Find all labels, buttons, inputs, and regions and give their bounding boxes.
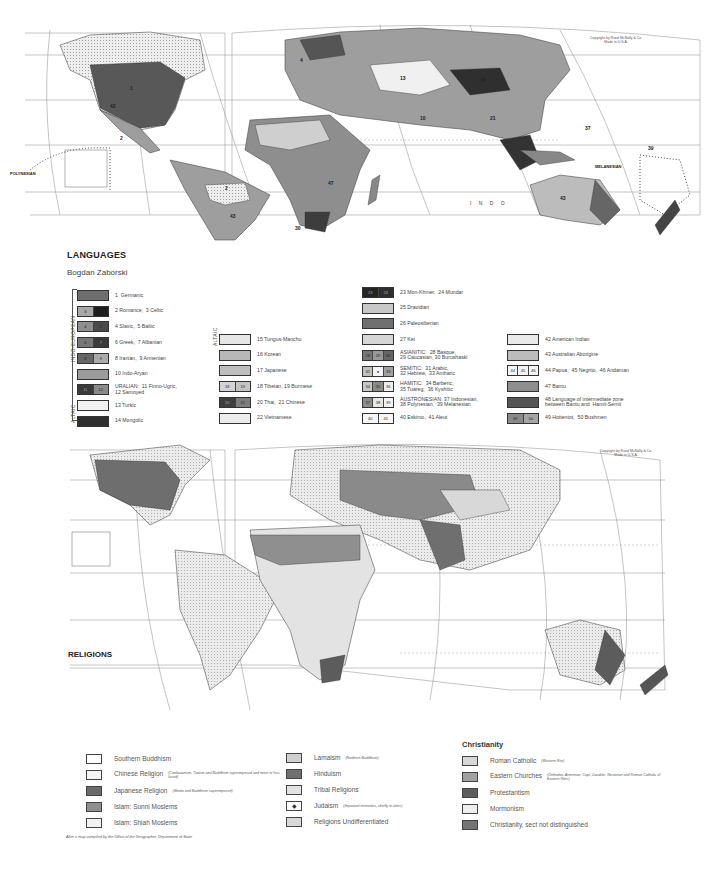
legend-label: 4 Slavic, 5 Baltic <box>115 324 155 330</box>
religion-legend-item: Christianity, sect not distinguished <box>462 818 588 831</box>
indo-european-label: INDO-EUROPEAN <box>70 316 76 362</box>
language-legend-item: 202120 Thai, 21 Chinese <box>219 396 305 409</box>
legend-label: Christianity, sect not distinguished <box>490 821 588 828</box>
language-legend-item: 47 Bantu <box>507 380 566 393</box>
legend-label: Eastern Churches(Orthodox, Armenian, Cop… <box>490 772 662 780</box>
svg-text:I N D O: I N D O <box>470 200 508 206</box>
religion-legend-item: Islam: Shiah Moslems <box>86 816 178 829</box>
language-legend-item: 343536HAMITIC: 34 Barberic, 35 Tuareg, 3… <box>362 380 454 393</box>
altaic-label-1: ALTAIC <box>70 404 76 423</box>
legend-label: 43 Australian Aborigine <box>545 352 598 358</box>
legend-swatch <box>77 369 109 380</box>
legend-swatch <box>77 400 109 411</box>
legend-swatch <box>286 817 302 827</box>
religion-legend-item: Religions Undifferentiated <box>286 815 388 828</box>
legend-swatch <box>462 820 478 830</box>
legend-label: Islam: Shiah Moslems <box>114 819 178 826</box>
judaism-star-icon: ◆ <box>286 801 302 811</box>
legend-label: Chinese Religion(Confucianism, Taoism an… <box>114 770 283 778</box>
svg-text:2: 2 <box>225 185 228 191</box>
religion-legend-item: Tribal Religions <box>286 783 359 796</box>
legend-label: 26 Paleosiberian <box>400 321 439 327</box>
legend-swatch: 31●33 <box>362 366 394 377</box>
legend-label: 47 Bantu <box>545 384 566 390</box>
legend-label: 13 Turkic <box>115 403 136 409</box>
christianity-heading: Christianity <box>462 740 503 749</box>
legend-label: URALIAN: 11 Finno-Ugric, 12 Samoyed <box>115 384 177 395</box>
legend-label: 20 Thai, 21 Chinese <box>257 400 305 406</box>
legend-swatch <box>462 788 478 798</box>
legend-swatch: 1112 <box>77 384 109 395</box>
religion-legend-item: Roman Catholic(Western Rite) <box>462 754 564 767</box>
legend-swatch: 67 <box>77 337 109 348</box>
legend-label: 40 Eskimo, 41 Aleut <box>400 415 447 421</box>
religion-legend-item: Lamaism(Northern Buddhism) <box>286 751 379 764</box>
legend-label: SEMITIC: 31 Arabic, 32 Hebrew, 33 Amhari… <box>400 366 455 377</box>
religion-legend-item: Mormonism <box>462 802 524 815</box>
svg-text:2: 2 <box>120 135 123 141</box>
language-legend-item: 404140 Eskimo, 41 Aleut <box>362 412 447 425</box>
legend-label: Roman Catholic(Western Rite) <box>490 757 564 764</box>
legend-swatch <box>362 318 394 329</box>
legend-swatch <box>507 381 539 392</box>
legend-swatch: 343536 <box>362 381 394 392</box>
source-credit: After a map compiled by the Office of th… <box>66 835 192 839</box>
language-legend-item: 676 Greek, 7 Albanian <box>77 336 162 349</box>
religion-legend-item: Southern Buddhism <box>86 752 171 765</box>
legend-swatch <box>507 334 539 345</box>
religion-legend-item: Eastern Churches(Orthodox, Armenian, Cop… <box>462 770 662 783</box>
legend-swatch: 89 <box>77 353 109 364</box>
religions-world-map <box>0 440 715 740</box>
svg-text:13: 13 <box>400 75 406 81</box>
language-legend-item: 282930ASIANITIC: 28 Basque, 29 Caucasian… <box>362 349 467 362</box>
language-legend-item: 15 Tungus-Manchu <box>219 333 301 346</box>
legend-label: 44 Papua, 45 Negrito, 46 Andaman <box>545 368 629 374</box>
svg-text:42: 42 <box>110 103 116 109</box>
language-legend-item: 14 Mongolic <box>77 415 143 428</box>
svg-text:1: 1 <box>130 85 133 91</box>
languages-author: Bogdan Zaborski <box>67 268 127 277</box>
language-legend-item: 181918 Tibetan, 19 Burmese <box>219 380 312 393</box>
language-legend-item: 43 Australian Aborigine <box>507 349 598 362</box>
legend-label: HAMITIC: 34 Barberic, 35 Tuareg, 36 Kysh… <box>400 381 454 392</box>
language-legend-item: 26 Paleosiberian <box>362 317 439 330</box>
svg-text:37: 37 <box>585 125 591 131</box>
legend-swatch <box>219 365 251 376</box>
language-legend-item: 44454644 Papua, 45 Negrito, 46 Andaman <box>507 364 629 377</box>
legend-swatch <box>507 397 539 408</box>
legend-label: 22 Vietnamese <box>257 415 292 421</box>
legend-label: 14 Mongolic <box>115 418 143 424</box>
legend-swatch <box>86 754 102 764</box>
language-legend-item: 495049 Hottentot, 50 Bushmen <box>507 412 607 425</box>
legend-swatch <box>462 756 478 766</box>
language-legend-item: 898 Iranian, 9 Armenian <box>77 352 166 365</box>
legend-label: 27 Ket <box>400 337 415 343</box>
legend-label: 16 Korean <box>257 352 281 358</box>
legend-label: Japanese Religion(Shinto and Buddhism su… <box>114 787 233 794</box>
legend-swatch: 282930 <box>362 350 394 361</box>
svg-text:30: 30 <box>295 225 301 231</box>
legend-label: ASIANITIC: 28 Basque, 29 Caucasian, 30 B… <box>400 350 467 361</box>
legend-label: 1 Germanic <box>115 293 143 299</box>
languages-copyright: Copyright by Rand McNally & Co. Made in … <box>590 36 642 44</box>
svg-text:MELANESIAN: MELANESIAN <box>595 164 622 169</box>
legend-label: 8 Iranian, 9 Armenian <box>115 356 166 362</box>
svg-text:14: 14 <box>480 77 486 83</box>
legend-swatch <box>219 334 251 345</box>
legend-swatch: 45 <box>77 321 109 332</box>
language-legend-item: 1112URALIAN: 11 Finno-Ugric, 12 Samoyed <box>77 383 177 396</box>
language-legend-item: 16 Korean <box>219 349 281 362</box>
legend-label: 17 Japanese <box>257 368 287 374</box>
legend-label: Mormonism <box>490 805 524 812</box>
religion-legend-item: ◆Judaism(Important minorities, chiefly i… <box>286 799 402 812</box>
religion-legend-item: Islam: Sunni Moslems <box>86 800 178 813</box>
language-legend-item: 27 Ket <box>362 333 415 346</box>
legend-label: 18 Tibetan, 19 Burmese <box>257 384 312 390</box>
language-legend-item: 17 Japanese <box>219 364 287 377</box>
religion-legend-item: Japanese Religion(Shinto and Buddhism su… <box>86 784 233 797</box>
legend-label: 25 Dravidian <box>400 305 429 311</box>
legend-swatch: 4950 <box>507 413 539 424</box>
svg-text:POLYNESIAN: POLYNESIAN <box>10 171 36 176</box>
religions-title: RELIGIONS <box>68 650 112 659</box>
religion-legend-item: Hinduism <box>286 767 341 780</box>
